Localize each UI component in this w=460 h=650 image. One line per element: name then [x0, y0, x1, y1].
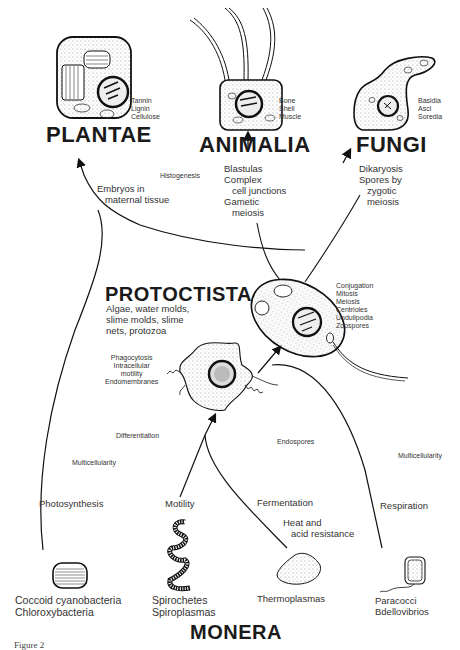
label-endospores: Endospores: [277, 438, 314, 446]
kingdom-fungi: FUNGI: [356, 132, 427, 158]
branch-fungi: [305, 195, 360, 282]
label-amoeboid-traits: Phagocytosis Intracellular motility Endo…: [105, 354, 158, 386]
label-paracocci: Paracocci Bdellovibrios: [375, 596, 429, 618]
cyanobacteria-icon: [53, 563, 87, 588]
label-multicellularity-right: Multicellularity: [398, 452, 442, 460]
label-animalia-traits: Bone Shell Muscle: [279, 97, 301, 121]
amoeboid-cell-icon: [167, 343, 278, 411]
branch-fermentation: [205, 435, 287, 548]
label-embryos: Embryos in maternal tissue: [97, 184, 169, 206]
arrow-to-protoctista: [258, 347, 280, 373]
label-multicellularity-left: Multicellularity: [72, 459, 116, 467]
spirochete-icon: [170, 522, 190, 589]
branch-motility: [180, 435, 205, 497]
label-protoctist-traits: Conjugation Mitosis Meiosis Centrioles U…: [336, 282, 373, 330]
label-spirochetes: Spirochetes Spiroplasmas: [152, 594, 216, 618]
label-protoctista-desc: Algae, water molds, slime molds, slime n…: [106, 304, 189, 337]
label-fermentation: Fermentation: [257, 498, 313, 509]
arrow-to-amoeboid: [205, 415, 215, 435]
label-fungi-traits: Basidia Asci Soredia: [418, 97, 442, 121]
thermoplasma-icon: [277, 553, 320, 584]
label-plantae-traits: Tannin Lignin Cellulose: [131, 97, 160, 121]
branch-animalia: [257, 223, 280, 280]
kingdom-monera: MONERA: [190, 621, 282, 644]
arrow-to-fungi: [343, 150, 350, 163]
kingdom-plantae: PLANTAE: [46, 122, 152, 148]
paracoccus-icon: [380, 557, 425, 592]
label-motility: Motility: [165, 499, 195, 510]
label-animal-traits: Blastulas Complex cell junctions Gametic…: [224, 164, 286, 219]
kingdom-animalia: ANIMALIA: [199, 132, 311, 158]
label-differentiation: Differentiation: [116, 432, 159, 440]
label-coccoid: Coccoid cyanobacteria Chloroxybacteria: [15, 594, 121, 618]
label-thermoplasmas: Thermoplasmas: [257, 594, 325, 605]
label-fungi-traits-branch: Dikaryosis Spores by zygotic meiosis: [359, 164, 403, 208]
animal-cell-icon: [190, 8, 282, 130]
protoctist-cell-icon: [238, 264, 408, 381]
label-heat-acid: Heat and acid resistance: [283, 518, 354, 540]
label-photosynthesis: Photosynthesis: [39, 499, 103, 510]
figure-caption: Figure 2: [14, 640, 44, 650]
label-respiration: Respiration: [380, 501, 428, 512]
plant-cell-icon: [57, 37, 131, 118]
label-histogenesis: Histogenesis: [160, 172, 200, 180]
